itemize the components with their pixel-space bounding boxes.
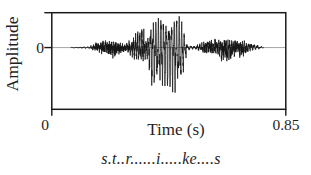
axis-box [52,13,286,110]
speech-waveform-figure: Amplitude 0 0 0.85 Time (s) s.t..r......… [0,0,311,175]
phoneme-annotation: s.t..r......i.....ke....s [61,150,261,168]
x-axis-tick-label-start: 0 [34,116,56,134]
waveform-plot-area [0,0,311,175]
x-axis-label: Time (s) [116,120,236,140]
x-axis-tick-label-end: 0.85 [266,116,306,134]
speech-waveform-trace [71,16,264,92]
